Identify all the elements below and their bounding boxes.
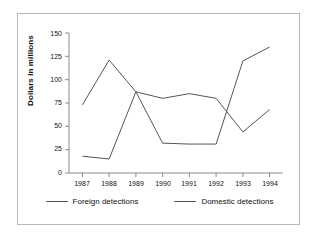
legend-line-icon (174, 201, 196, 202)
legend-label: Foreign detections (73, 197, 139, 206)
x-axis-ticks (82, 173, 269, 177)
chart-legend: Foreign detections Domestic detections (18, 197, 301, 206)
y-tick-label-100: 100 (36, 76, 62, 83)
chart-plot-area: Dollars in millions 150 125 100 75 50 25… (18, 14, 301, 226)
legend-item-domestic-detections[interactable]: Domestic detections (174, 197, 273, 206)
y-axis-title: Dollars in millions (26, 11, 35, 131)
axis-lines (69, 33, 283, 173)
y-tick-label-0: 0 (36, 169, 62, 176)
y-tick-label-150: 150 (36, 30, 62, 37)
y-tick-label-75: 75 (36, 99, 62, 106)
chart-svg (18, 14, 301, 226)
y-tick-label-25: 25 (36, 145, 62, 152)
x-tick-label-1994: 1994 (253, 180, 287, 187)
series-line-foreign-detections (82, 47, 269, 159)
legend-label: Domestic detections (201, 197, 273, 206)
legend-line-icon (46, 201, 68, 202)
y-tick-label-125: 125 (36, 53, 62, 60)
legend-item-foreign-detections[interactable]: Foreign detections (46, 197, 139, 206)
y-axis-ticks (65, 33, 69, 173)
series-line-domestic-detections (82, 60, 269, 132)
chart-figure: Dollars in millions 150 125 100 75 50 25… (17, 13, 300, 225)
y-tick-label-50: 50 (36, 122, 62, 129)
